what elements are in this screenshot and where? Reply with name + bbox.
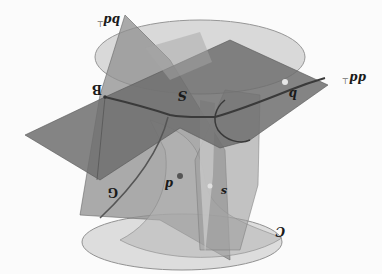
point-b-marker — [282, 79, 288, 85]
svg-text:d: d — [164, 177, 173, 191]
label-C: C — [275, 224, 285, 238]
label-S: S — [178, 88, 187, 103]
label-bd: bd — [103, 13, 120, 27]
point-B-marker — [103, 95, 107, 99]
svg-text:C: C — [275, 224, 285, 238]
label-s: s — [221, 185, 227, 198]
svg-text:bd: bd — [103, 13, 120, 27]
label-dd: dd — [349, 71, 366, 85]
svg-text:dd: dd — [349, 71, 366, 85]
hyperboloid-diagram: bd ⊤ dd ⊤ B S b d s G C — [0, 0, 382, 274]
diagram-canvas: bd ⊤ dd ⊤ B S b d s G C — [0, 0, 382, 274]
svg-text:G: G — [108, 185, 118, 199]
svg-text:s: s — [221, 185, 227, 198]
label-B: B — [92, 82, 102, 96]
svg-text:S: S — [178, 88, 187, 103]
svg-text:b: b — [289, 87, 297, 101]
point-p-marker — [177, 173, 183, 179]
label-b: b — [289, 87, 297, 101]
label-bd-sup: ⊤ — [97, 20, 104, 29]
label-dd-sup: ⊤ — [342, 77, 349, 86]
label-p: d — [164, 177, 173, 191]
svg-text:B: B — [92, 82, 102, 96]
label-G: G — [108, 185, 118, 199]
point-s-marker — [208, 184, 213, 189]
